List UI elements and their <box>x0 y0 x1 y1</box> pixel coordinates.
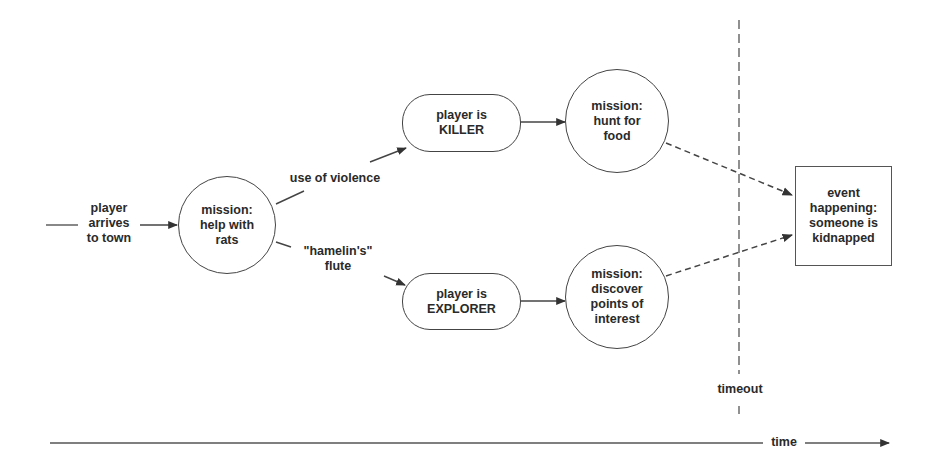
edge-rats-flute-stub <box>276 242 291 247</box>
node-player-is-killer: player is KILLER <box>402 94 521 152</box>
node-mission-hunt-for-food: mission: hunt for food <box>565 69 669 173</box>
node-player-is-explorer: player is EXPLORER <box>402 273 521 330</box>
node-mission-discover-points: mission: discover points of interest <box>565 245 669 349</box>
node-label: player is KILLER <box>436 108 487 138</box>
edge-label-use-of-violence: use of violence <box>276 171 394 186</box>
edge-rats-violence-stub <box>276 191 304 204</box>
node-label: mission: discover points of interest <box>591 267 644 327</box>
arrow-flute-to-explorer <box>384 276 405 285</box>
dashed-arrow-hunt-to-event <box>666 143 792 195</box>
node-label: mission: hunt for food <box>591 99 642 144</box>
start-label: player arrives to town <box>78 201 140 246</box>
dashed-arrow-discover-to-event <box>666 235 792 276</box>
timeout-label: timeout <box>710 382 770 397</box>
arrow-violence-to-killer <box>370 148 406 162</box>
node-label: player is EXPLORER <box>427 287 496 317</box>
edge-label-hamelins-flute: "hamelin's" flute <box>292 244 384 274</box>
node-event-someone-kidnapped: event happening: someone is kidnapped <box>795 166 892 266</box>
node-label: mission: help with rats <box>200 203 254 248</box>
node-label: event happening: someone is kidnapped <box>809 186 878 246</box>
time-axis-label: time <box>763 435 805 450</box>
node-mission-help-with-rats: mission: help with rats <box>178 176 276 274</box>
